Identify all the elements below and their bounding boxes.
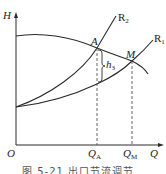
qm-label-text: Q <box>123 147 131 159</box>
x-axis-arrow-icon <box>158 143 164 147</box>
r1-label: R1 <box>154 33 165 46</box>
point-a-label: A <box>91 36 98 47</box>
r2-label-sub: 2 <box>125 17 129 25</box>
qa-label-text: Q <box>88 147 96 159</box>
system-curve-r2 <box>16 16 116 107</box>
x-axis-label: Q <box>150 148 158 159</box>
qm-label-sub: M <box>131 153 137 161</box>
qm-tick-label: QM <box>123 148 137 161</box>
h3-label: h3 <box>106 59 115 72</box>
diagram-canvas <box>0 0 166 174</box>
point-m-label: M <box>126 49 135 60</box>
qa-label-sub: A <box>96 153 101 161</box>
h3-brace <box>98 50 105 82</box>
pump-throttling-diagram: H O Q R2 R1 A M h3 QA QM 图 5-21 出口节流调节 <box>0 0 166 174</box>
figure-caption: 图 5-21 出口节流调节 <box>22 163 134 174</box>
r1-label-sub: 1 <box>161 38 165 46</box>
r2-label: R2 <box>118 12 129 25</box>
origin-label: O <box>7 148 15 159</box>
qa-tick-label: QA <box>88 148 101 161</box>
y-axis-arrow-icon <box>14 12 18 18</box>
h3-label-sub: 3 <box>112 64 116 72</box>
y-axis-label: H <box>3 10 11 21</box>
